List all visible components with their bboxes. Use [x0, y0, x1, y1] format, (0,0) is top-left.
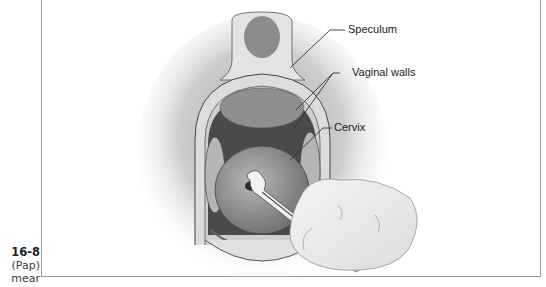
label-speculum: Speculum — [348, 23, 397, 35]
figure-number: 16-8 — [11, 246, 40, 259]
label-vaginal-walls: Vaginal walls — [352, 66, 415, 78]
label-cervix: Cervix — [334, 121, 365, 133]
figure-caption: 16-8 (Pap) mear — [11, 246, 40, 285]
caption-line-2: mear — [11, 272, 40, 285]
caption-line-1: (Pap) — [11, 259, 40, 272]
speculum-illustration — [0, 0, 546, 287]
